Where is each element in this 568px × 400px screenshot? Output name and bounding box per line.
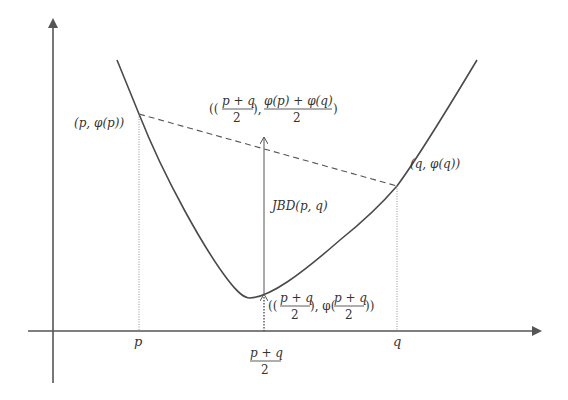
svg-text:((: (( [209,102,218,116]
jbd-label: JBD(p, q) [269,199,328,213]
p-tick-label: p [134,334,143,349]
svg-text:p + q: p + q [222,94,255,108]
svg-text:p + q: p + q [280,291,313,305]
chord-midpoint-label: (( p + q 2 ), φ(p) + φ(q) 2 ) [209,94,338,125]
p-point-label: (p, φ(p)) [74,116,124,130]
svg-text:2: 2 [293,111,301,125]
svg-text:2: 2 [233,111,241,125]
mid-tick-numerator: p + q [250,346,283,360]
svg-text:): ) [333,102,338,116]
svg-text:),: ), [253,102,262,116]
curve-midpoint-label: (( p + q 2 ), φ( p + q 2 )) [268,291,374,322]
chord-line [139,114,397,186]
q-tick-label: q [393,334,401,349]
svg-text:φ(p) + φ(q): φ(p) + φ(q) [264,94,333,108]
svg-text:), φ(: ), φ( [310,299,335,313]
jbd-diagram: p q p + q 2 (p, φ(p)) (q, φ(q)) (( p + q… [0,0,568,400]
svg-text:((: (( [268,299,277,313]
mid-tick-denominator: 2 [261,363,269,377]
svg-text:)): )) [365,299,374,313]
q-point-label: (q, φ(q)) [410,157,460,171]
svg-text:2: 2 [291,308,299,322]
svg-text:p + q: p + q [334,291,367,305]
svg-text:2: 2 [345,308,353,322]
